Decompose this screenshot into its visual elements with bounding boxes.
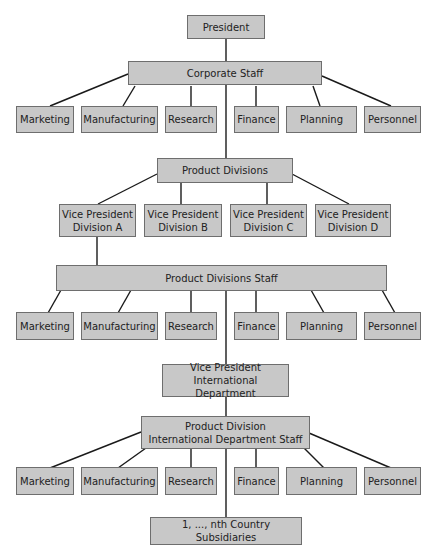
president-box: President (187, 15, 265, 39)
pd-personnel-box: Personnel (364, 312, 421, 340)
intl-manufacturing-box: Manufacturing (81, 467, 158, 495)
corporate-finance-box: Finance (234, 106, 279, 133)
corporate-planning-box: Planning (286, 106, 357, 133)
country-subsidiaries-box: 1, ..., nth Country Subsidiaries (150, 517, 302, 545)
product-divisions-box: Product Divisions (157, 158, 293, 183)
corporate-personnel-box: Personnel (364, 106, 421, 133)
intl-staff-box: Product Division International Departmen… (141, 416, 310, 449)
corporate-manufacturing-box: Manufacturing (81, 106, 158, 133)
corporate-staff-box: Corporate Staff (128, 61, 322, 85)
pd-finance-box: Finance (234, 312, 279, 340)
intl-research-box: Research (165, 467, 217, 495)
intl-finance-box: Finance (234, 467, 279, 495)
vp-division-d-box: Vice President Division D (315, 204, 391, 237)
vp-division-b-box: Vice President Division B (144, 204, 222, 237)
vp-division-c-box: Vice President Division C (230, 204, 307, 237)
intl-planning-box: Planning (286, 467, 357, 495)
product-divisions-staff-box: Product Divisions Staff (56, 265, 387, 291)
pd-marketing-box: Marketing (16, 312, 74, 340)
intl-personnel-box: Personnel (364, 467, 421, 495)
vp-division-a-box: Vice President Division A (59, 204, 136, 237)
pd-planning-box: Planning (286, 312, 357, 340)
intl-marketing-box: Marketing (16, 467, 74, 495)
pd-manufacturing-box: Manufacturing (81, 312, 158, 340)
corporate-marketing-box: Marketing (16, 106, 74, 133)
pd-research-box: Research (165, 312, 217, 340)
corporate-research-box: Research (165, 106, 217, 133)
vp-international-box: Vice President International Department (162, 364, 289, 397)
